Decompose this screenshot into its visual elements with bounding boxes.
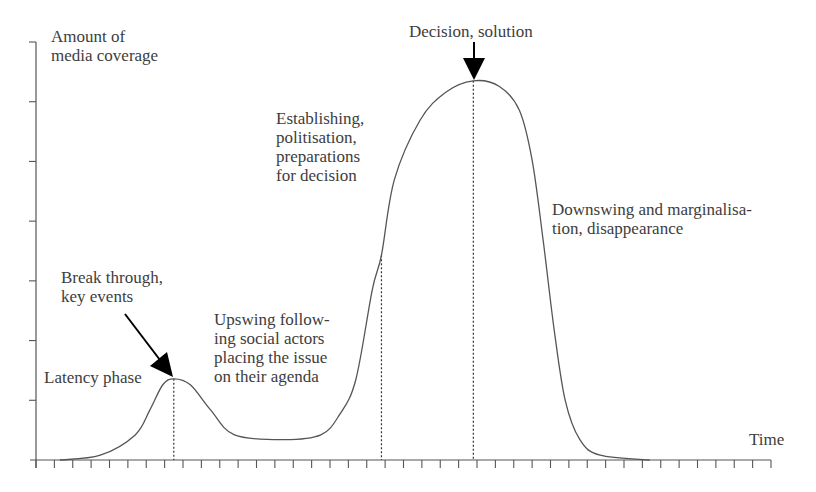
annotation-decision: Decision, solution <box>409 22 533 41</box>
annotation-breakthrough: Break through, key events <box>61 268 163 306</box>
annotation-downswing: Downswing and marginalisa- tion, disappe… <box>552 200 752 238</box>
media-coverage-diagram <box>0 0 816 492</box>
decision-arrow-head <box>463 58 485 80</box>
breakthrough-arrow-shaft <box>125 314 160 360</box>
axes <box>29 42 771 468</box>
y-axis-label: Amount of media coverage <box>51 27 158 65</box>
annotation-establishing: Establishing, politisation, preparations… <box>276 109 364 185</box>
annotation-upswing: Upswing follow- ing social actors placin… <box>214 310 330 386</box>
breakthrough-arrow-head <box>150 352 173 377</box>
annotation-latency: Latency phase <box>44 368 142 387</box>
x-axis-label: Time <box>749 430 784 449</box>
